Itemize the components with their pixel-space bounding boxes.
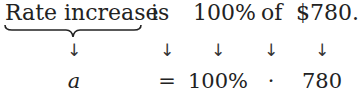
word-dollar-780: $780. [296,2,359,24]
down-arrow-icon: ↓ [67,42,81,59]
word-is: is [151,2,169,24]
symbol-100-percent: 100% [188,71,248,92]
underbrace-icon [4,24,142,38]
symbol-a: a [68,71,81,92]
word-rate-increase: Rate increase [5,2,159,24]
symbol-times-dot: · [268,71,275,92]
down-arrow-icon: ↓ [264,42,278,59]
symbol-equals: = [158,71,176,92]
down-arrow-icon: ↓ [315,42,329,59]
down-arrow-icon: ↓ [160,42,174,59]
word-100-percent: 100% [193,2,256,24]
symbol-780: 780 [302,71,342,92]
down-arrow-icon: ↓ [211,42,225,59]
word-of: of [261,2,282,24]
